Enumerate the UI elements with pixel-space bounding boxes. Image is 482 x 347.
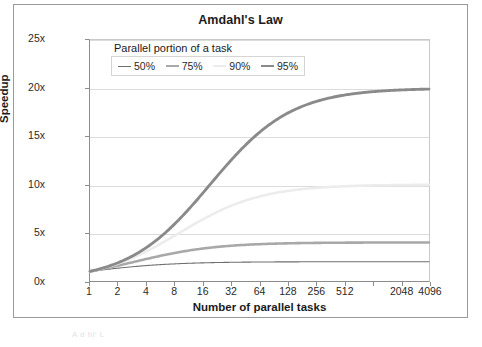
legend-item-75pct[interactable]: 75% (166, 60, 203, 72)
y-tick-label: 5x (5, 226, 45, 238)
series-line-90pct (90, 185, 429, 272)
x-tick-label: 128 (279, 285, 297, 297)
legend-swatch-icon (166, 65, 179, 67)
legend-label: 90% (229, 60, 250, 72)
chart-title: Amdahl's Law (14, 13, 467, 27)
legend-item-90pct[interactable]: 90% (213, 60, 250, 72)
y-tick-label: 20x (5, 81, 45, 93)
x-tick-mark (345, 282, 346, 286)
legend-label: 95% (277, 60, 298, 72)
y-tick-label: 15x (5, 129, 45, 141)
x-tick-label: 64 (254, 285, 266, 297)
x-tick-mark (402, 282, 403, 286)
x-tick-mark (231, 282, 232, 286)
x-tick-label: 4 (143, 285, 149, 297)
x-tick-label: 8 (171, 285, 177, 297)
series-line-50pct (90, 262, 429, 272)
legend-label: 75% (182, 60, 203, 72)
figure-frame: Amdahl's Law Speedup 0x5x10x15x20x25x 12… (13, 4, 468, 318)
legend: Parallel portion of a task 50%75%90%95% (111, 42, 305, 76)
legend-swatch-icon (213, 65, 226, 67)
legend-item-95pct[interactable]: 95% (261, 60, 298, 72)
scan-artifact: A d hl' L (72, 330, 105, 339)
x-tick-mark (288, 282, 289, 286)
x-tick-label: 32 (225, 285, 237, 297)
x-tick-mark (89, 282, 90, 286)
x-tick-label: 16 (197, 285, 209, 297)
y-tick-label: 25x (5, 32, 45, 44)
x-tick-mark (373, 282, 374, 286)
series-line-75pct (90, 242, 429, 271)
legend-swatch-icon (261, 65, 274, 67)
x-tick-label: 512 (336, 285, 354, 297)
x-tick-label: 256 (308, 285, 326, 297)
legend-item-50pct[interactable]: 50% (118, 60, 155, 72)
x-tick-label: 2 (114, 285, 120, 297)
legend-label: 50% (134, 60, 155, 72)
legend-title: Parallel portion of a task (111, 42, 305, 54)
x-tick-mark (117, 282, 118, 286)
x-tick-mark (146, 282, 147, 286)
y-tick-label: 0x (5, 275, 45, 287)
legend-swatch-icon (118, 66, 131, 67)
x-tick-mark (316, 282, 317, 286)
x-tick-mark (430, 282, 431, 286)
x-axis-title: Number of parallel tasks (89, 301, 430, 313)
x-tick-mark (174, 282, 175, 286)
x-tick-label: 2048 (390, 285, 413, 297)
x-tick-mark (260, 282, 261, 286)
legend-items: 50%75%90%95% (111, 56, 305, 76)
y-tick-label: 10x (5, 178, 45, 190)
series-curves (90, 40, 429, 281)
x-tick-label: 1 (86, 285, 92, 297)
x-tick-mark (203, 282, 204, 286)
x-tick-label: 4096 (418, 285, 441, 297)
